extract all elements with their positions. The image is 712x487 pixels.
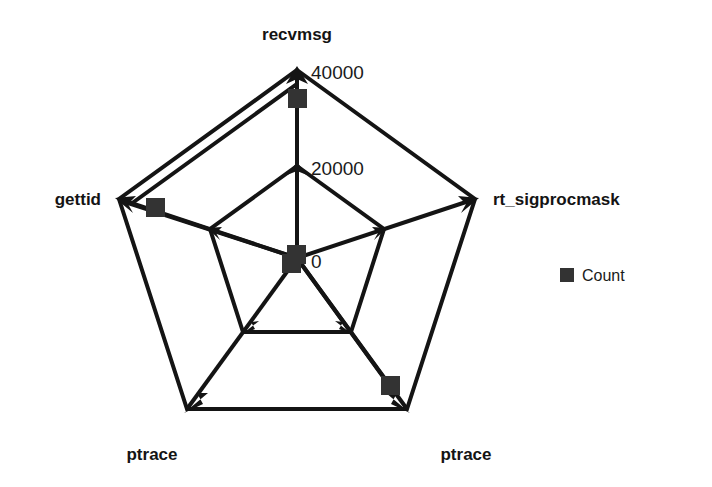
tick-label-20000: 20000 <box>311 158 364 179</box>
legend-marker-count <box>560 268 574 282</box>
axis-label-gettid: gettid <box>55 190 101 209</box>
legend-label-count: Count <box>582 267 625 284</box>
radar-chart-canvas: 40000 20000 0 recvmsg rt_sigprocmask ptr… <box>0 0 712 487</box>
data-series-count-polygon <box>131 84 392 389</box>
axis-label-recvmsg: recvmsg <box>262 25 332 44</box>
tick-label-0: 0 <box>311 251 322 272</box>
tick-label-40000: 40000 <box>311 62 364 83</box>
data-point-gettid <box>146 198 165 217</box>
axis-label-rt-sigprocmask: rt_sigprocmask <box>493 190 620 209</box>
radar-chart-figure: 40000 20000 0 recvmsg rt_sigprocmask ptr… <box>0 0 712 487</box>
data-point-ptrace-left <box>282 254 301 273</box>
axis-label-ptrace-bottom-left: ptrace <box>126 445 177 464</box>
data-point-ptrace-right <box>381 376 400 395</box>
axis-label-ptrace-bottom-right: ptrace <box>440 445 491 464</box>
chart-legend: Count <box>560 267 625 284</box>
data-point-recvmsg <box>288 89 307 108</box>
